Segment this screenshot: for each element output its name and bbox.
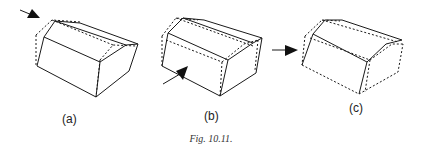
panel-c-original-outline: [302, 20, 403, 94]
panel-c-deformed-outline: [302, 20, 402, 94]
panel-a-label: (a): [62, 112, 77, 126]
panel-c-label: (c): [349, 101, 363, 115]
panel-a-drawing: [20, 9, 138, 97]
panel-c-force-arrow: [272, 45, 298, 56]
figure-diagram: [0, 0, 422, 152]
panel-c-drawing: [272, 20, 403, 94]
panel-a-force-arrow: [20, 9, 40, 18]
panel-b-label: (b): [204, 109, 219, 123]
panel-b-drawing: [162, 18, 262, 96]
panel-b-original-outline: [162, 18, 258, 96]
figure-caption: Fig. 10.11.: [0, 133, 422, 144]
panel-b-deformed-outline: [162, 18, 262, 96]
panel-a-deformed-outline: [37, 21, 138, 97]
